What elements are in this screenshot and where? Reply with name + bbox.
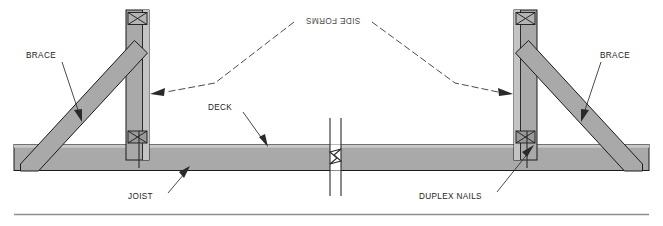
side-form-right [514, 10, 537, 168]
leader-side-forms-right [372, 22, 513, 96]
label-brace-left: BRACE [26, 51, 56, 60]
side-form-left [126, 10, 149, 168]
side-forms-detail-diagram: SIDE FORMS BRACE BRACE DECK JOIST DUPLEX… [0, 0, 663, 226]
duplex-nail-right-hatch [516, 131, 535, 143]
diagram-page: SIDE FORMS BRACE BRACE DECK JOIST DUPLEX… [0, 0, 663, 226]
side-form-right-top-hatch [516, 13, 535, 25]
label-duplex-nails: DUPLEX NAILS [419, 192, 482, 201]
break-symbol [330, 118, 341, 196]
label-deck: DECK [208, 103, 232, 112]
label-brace-right: BRACE [600, 51, 630, 60]
side-form-left-top-hatch [128, 13, 147, 25]
leader-deck [243, 112, 268, 147]
label-side-forms: SIDE FORMS [306, 16, 361, 25]
label-joist: JOIST [128, 192, 153, 201]
label-side-forms-text: SIDE FORMS [306, 16, 361, 25]
leader-side-forms-left [150, 22, 294, 96]
duplex-nail-left-hatch [128, 131, 147, 143]
